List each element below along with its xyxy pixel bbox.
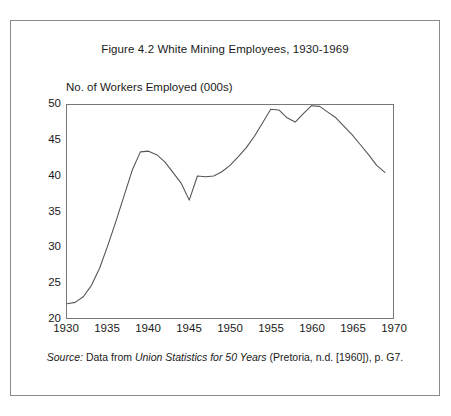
data-series-line: [67, 106, 385, 304]
source-tail: (Pretoria, n.d. [1960]), p. G7.: [267, 351, 404, 363]
y-tick-label: 25: [48, 277, 61, 289]
x-tick-label: 1935: [94, 323, 120, 335]
source-label: Source:: [47, 351, 83, 363]
x-tick-label: 1960: [299, 323, 325, 335]
source-publication-title: Union Statistics for 50 Years: [135, 351, 267, 363]
y-tick-label: 30: [48, 241, 61, 253]
x-tick-label: 1965: [340, 323, 366, 335]
x-axis-tick-labels: 193019351940194519501955196019651970: [66, 323, 394, 339]
x-tick-label: 1940: [135, 323, 161, 335]
x-tick-label: 1955: [258, 323, 284, 335]
source-lead: Data from: [83, 351, 135, 363]
y-axis-title: No. of Workers Employed (000s): [66, 81, 233, 93]
source-note: Source: Data from Union Statistics for 5…: [11, 351, 439, 363]
figure-title: Figure 4.2 White Mining Employees, 1930-…: [11, 43, 439, 55]
x-tick-label: 1945: [176, 323, 202, 335]
x-tick-label: 1970: [381, 323, 407, 335]
x-tick-label: 1930: [53, 323, 79, 335]
y-tick-label: 35: [48, 206, 61, 218]
figure-outer-border: Figure 4.2 White Mining Employees, 1930-…: [10, 20, 440, 396]
line-chart-svg: [67, 105, 393, 318]
plot-area: [66, 104, 394, 319]
y-axis-tick-labels: 20253035404550: [29, 104, 61, 319]
y-tick-label: 45: [48, 134, 61, 146]
x-tick-label: 1950: [217, 323, 243, 335]
y-tick-label: 40: [48, 170, 61, 182]
y-tick-label: 50: [48, 98, 61, 110]
